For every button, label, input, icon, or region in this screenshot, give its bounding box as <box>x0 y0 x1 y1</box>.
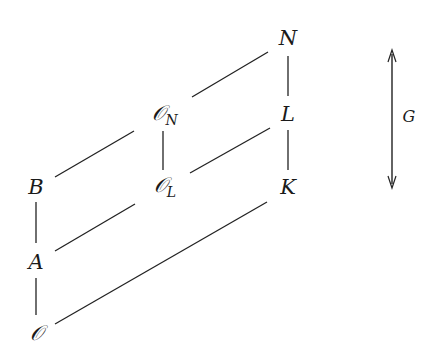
edge-B-ON <box>55 131 134 177</box>
node-K: K <box>280 177 296 198</box>
node-O-L: 𝒪L <box>154 175 176 199</box>
node-B: B <box>28 177 43 198</box>
edge-OL-L <box>190 128 270 173</box>
node-O: 𝒪 <box>30 323 43 344</box>
arrow-label-G: G <box>403 107 416 126</box>
node-L: L <box>281 104 295 125</box>
edges-layer <box>0 0 437 357</box>
edge-O-K <box>55 202 267 324</box>
node-N: N <box>279 28 297 49</box>
galois-group-arrow <box>388 50 396 188</box>
node-O-N: 𝒪N <box>152 103 177 127</box>
edge-A-OL <box>55 204 135 251</box>
edge-ON-N <box>192 52 268 97</box>
node-A: A <box>28 252 43 273</box>
